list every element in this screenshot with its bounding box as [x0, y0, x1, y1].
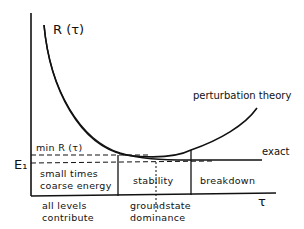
region-1-below-line2: contribute [42, 212, 94, 223]
min-r-label: min R (τ) [36, 142, 82, 153]
y-axis-label: R (τ) [53, 24, 84, 35]
e1-dashed-line [31, 161, 215, 163]
region-2-below-line2: dominance [130, 212, 185, 223]
region-1-box-line1: small times [40, 168, 98, 179]
region-2-box: stability [133, 175, 174, 186]
region-2-below-line1: groundstate [130, 200, 191, 211]
region-1-below-line1: all levels [42, 200, 87, 211]
x-axis [31, 193, 276, 196]
perturbation-label: perturbation theory [193, 90, 291, 101]
e1-label: E₁ [14, 159, 27, 170]
x-axis-label: τ [258, 196, 266, 207]
region-1-box-line2: coarse energy [40, 180, 112, 191]
region-3-box: breakdown [200, 175, 255, 186]
exact-label: exact [262, 146, 289, 157]
